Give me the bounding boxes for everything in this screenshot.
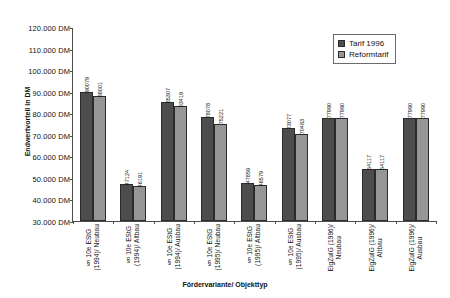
x-axis-category-label: EigZulG (1996)/ Neubau: [327, 224, 342, 271]
y-axis-tick-mark: [70, 179, 73, 180]
bar-value-label-wrap: 83419: [175, 77, 188, 107]
legend-label: Tarif 1996: [349, 39, 384, 48]
x-axis-category: § 10e EStG (1994)/ Neubau: [72, 224, 112, 282]
bar[interactable]: 54117: [375, 169, 388, 221]
legend-item[interactable]: Reformtarif: [338, 49, 389, 60]
bar[interactable]: 83419: [174, 106, 187, 221]
bar-value-label: 77990: [336, 103, 349, 118]
bar-value-label-wrap: 73077: [283, 99, 296, 129]
x-axis-category: EigZulG (1996)/ Neubau: [315, 224, 355, 282]
bar-value-label: 54117: [376, 155, 389, 170]
bar-value-label-wrap: 70483: [296, 105, 309, 135]
bar[interactable]: 46191: [133, 186, 146, 221]
bar-group: 7307770483: [275, 28, 315, 221]
bar-value-label: 70483: [296, 119, 309, 134]
bar[interactable]: 54117: [362, 169, 375, 221]
legend-label: Reformtarif: [349, 50, 389, 59]
bar[interactable]: 73077: [282, 128, 295, 221]
y-axis-tick-label: 30.000 DM: [32, 218, 70, 227]
bar-value-label-wrap: 77990: [323, 89, 336, 119]
x-axis-category: § 10e EStG (1995)/ Altbau: [234, 224, 274, 282]
y-axis-tick-label: 100.000 DM: [28, 67, 70, 76]
bar-value-label-wrap: 85307: [162, 73, 175, 103]
x-axis-category-label: EigZulG (1996)/ Ausbau: [408, 224, 423, 271]
bar-value-label: 83419: [175, 92, 188, 107]
bar[interactable]: 75221: [214, 124, 227, 221]
y-axis-tick-mark: [70, 200, 73, 201]
bar-value-label: 47859: [242, 168, 255, 183]
bar-group: 7799077990: [396, 28, 436, 221]
x-axis-tick-mark: [436, 221, 437, 224]
bar-group: 8530783419: [154, 28, 194, 221]
bar-group: 4712446191: [113, 28, 153, 221]
chart-legend: Tarif 1996Reformtarif: [333, 34, 396, 64]
bar-value-label-wrap: 77990: [417, 89, 430, 119]
bar-value-label: 77990: [323, 103, 336, 118]
bar-value-label-wrap: 47124: [121, 155, 134, 185]
bar-value-label: 47124: [121, 170, 134, 185]
y-axis-tick-mark: [70, 157, 73, 158]
legend-swatch-icon: [338, 40, 345, 47]
y-axis-tick-mark: [70, 114, 73, 115]
bar[interactable]: 85307: [161, 102, 174, 221]
bar[interactable]: 88001: [93, 96, 106, 221]
x-axis-category-label: § 10e EStG (1994)/ Altbau: [125, 224, 140, 266]
bar-value-label-wrap: 78078: [202, 88, 215, 118]
x-axis-category: § 10e EStG (1995)/ Ausbau: [274, 224, 314, 282]
bar-value-label-wrap: 47859: [242, 154, 255, 184]
legend-item[interactable]: Tarif 1996: [338, 38, 389, 49]
bar-value-label-wrap: 90079: [81, 63, 94, 93]
bar[interactable]: 46579: [254, 185, 267, 221]
y-axis-tick-label: 120.000 DM: [28, 24, 70, 33]
x-axis-category: EigZulG (1996)/ Ausbau: [396, 224, 436, 282]
bar-value-label-wrap: 77990: [336, 89, 349, 119]
x-axis-category-label: EigZulG (1996)/ Altbau: [368, 224, 383, 271]
bar-value-label: 78078: [202, 103, 215, 118]
y-axis-tick-mark: [70, 136, 73, 137]
chart-title: [60, 0, 390, 11]
bar-value-label-wrap: 46191: [134, 157, 147, 187]
bar-value-label: 88001: [94, 82, 107, 97]
x-axis-category-label: § 10e EStG (1994)/ Ausbau: [166, 224, 181, 270]
y-axis-tick-labels: 120.000 DM110.000 DM100.000 DM90.000 DM8…: [12, 28, 70, 224]
y-axis-tick-label: 90.000 DM: [32, 88, 70, 97]
x-axis-category: § 10e EStG (1995)/ Neubau: [193, 224, 233, 282]
y-axis-tick-label: 60.000 DM: [32, 153, 70, 162]
bar-value-label-wrap: 46579: [255, 156, 268, 186]
bar[interactable]: 77990: [403, 118, 416, 221]
x-axis-category-label: § 10e EStG (1995)/ Ausbau: [287, 224, 302, 270]
legend-swatch-icon: [338, 51, 345, 58]
x-axis-category-labels: § 10e EStG (1994)/ Neubau§ 10e EStG (199…: [72, 224, 436, 282]
y-axis-tick-mark: [70, 93, 73, 94]
bar-chart: Endwertvorteil in DM 120.000 DM110.000 D…: [0, 0, 450, 298]
bar[interactable]: 70483: [295, 134, 308, 221]
bar-value-label: 46191: [134, 172, 147, 187]
bar[interactable]: 78078: [201, 117, 214, 221]
bar-value-label: 73077: [283, 114, 296, 129]
y-axis-tick-label: 110.000 DM: [29, 45, 70, 54]
bar-group: 9007988001: [73, 28, 113, 221]
bar-group: 7807875221: [194, 28, 234, 221]
y-axis-tick-label: 40.000 DM: [32, 196, 70, 205]
bar[interactable]: 90079: [80, 92, 93, 222]
y-axis-tick-mark: [70, 28, 73, 29]
bar-value-label: 85307: [162, 88, 175, 103]
bar[interactable]: 47859: [241, 183, 254, 221]
x-axis-category: EigZulG (1996)/ Altbau: [355, 224, 395, 282]
bar-value-label-wrap: 54117: [376, 140, 389, 170]
bar-value-label-wrap: 88001: [94, 67, 107, 97]
bar-value-label: 46579: [255, 171, 268, 186]
bar[interactable]: 77990: [335, 118, 348, 221]
y-axis-tick-label: 80.000 DM: [32, 110, 70, 119]
bar[interactable]: 77990: [322, 118, 335, 221]
bar-value-label: 90079: [81, 77, 94, 92]
bar[interactable]: 47124: [120, 184, 133, 221]
bar[interactable]: 77990: [416, 118, 429, 221]
x-axis-category: § 10e EStG (1994)/ Altbau: [112, 224, 152, 282]
y-axis-tick-label: 70.000 DM: [32, 131, 70, 140]
x-axis-category-label: § 10e EStG (1994)/ Neubau: [85, 224, 100, 271]
bar-value-label: 77990: [404, 103, 417, 118]
y-axis-tick-mark: [70, 50, 73, 51]
bar-value-label-wrap: 75221: [215, 95, 228, 125]
bar-value-label-wrap: 54117: [363, 140, 376, 170]
